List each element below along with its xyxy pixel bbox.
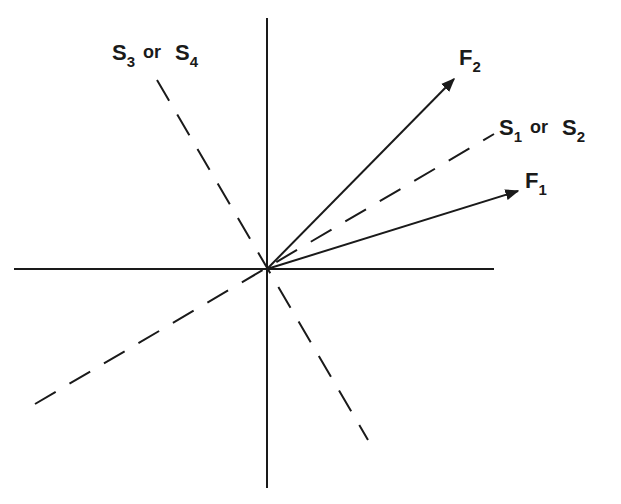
vector-diagram: S3orS4 F2 S1orS2 F1 <box>0 0 621 504</box>
label-s3-or-s4: S3orS4 <box>112 40 199 70</box>
label-s1-or-s2: S1orS2 <box>499 115 585 145</box>
label-f2: F2 <box>459 45 481 75</box>
dashed-line-s3-s4 <box>157 80 368 440</box>
label-f1: F1 <box>525 168 547 198</box>
